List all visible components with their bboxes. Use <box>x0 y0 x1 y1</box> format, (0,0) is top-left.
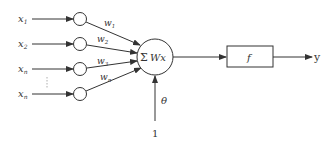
perceptron-diagram: x1 x2 xn xn w1 w2 w3 wn Σ Wx θ 1 f y <box>0 0 330 143</box>
bias-theta-label: θ <box>161 95 167 106</box>
sum-symbol: Σ <box>140 51 148 64</box>
output-label: y <box>313 51 321 64</box>
input-label-2: x2 <box>18 38 28 50</box>
input-label-3: xn <box>18 63 28 75</box>
sum-text: Wx <box>150 52 166 63</box>
input-row-1: x1 <box>18 13 87 26</box>
input-label-1: x1 <box>18 13 27 25</box>
input-node-3 <box>74 63 87 76</box>
input-label-4: xn <box>18 88 28 100</box>
input-node-1 <box>74 13 87 26</box>
input-row-2: x2 <box>18 38 87 51</box>
input-node-4 <box>74 88 87 101</box>
input-row-3: xn <box>18 63 87 76</box>
weight-edge-2 <box>87 45 137 53</box>
input-row-4: xn <box>18 88 87 101</box>
weight-label-4: wn <box>100 72 112 83</box>
weight-label-2: w2 <box>97 34 109 45</box>
weight-label-1: w1 <box>104 18 115 29</box>
weight-label-3: w3 <box>97 56 109 67</box>
weight-edge-4 <box>86 68 141 91</box>
weight-edge-3 <box>87 61 137 68</box>
bias-input-label: 1 <box>152 128 158 139</box>
input-node-2 <box>74 38 87 51</box>
